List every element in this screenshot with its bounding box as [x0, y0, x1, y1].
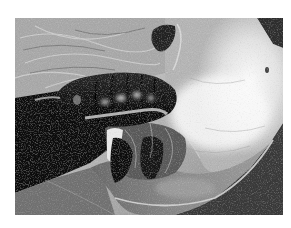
page: Black-and-white photo of a dark segmente… [0, 0, 291, 228]
photo-rendering [15, 18, 283, 215]
pupa-photograph: Black-and-white photo of a dark segmente… [15, 18, 283, 215]
